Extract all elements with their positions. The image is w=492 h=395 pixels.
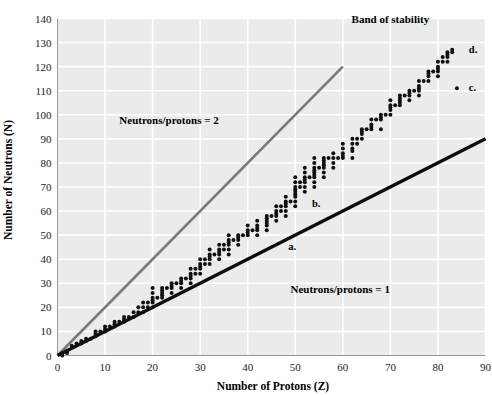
data-point xyxy=(298,180,302,184)
y-tick-label: 40 xyxy=(41,253,53,265)
data-point xyxy=(193,272,197,276)
point-label-a: a. xyxy=(288,241,296,252)
data-point xyxy=(393,103,397,107)
data-point xyxy=(312,156,316,160)
data-point xyxy=(113,320,117,324)
data-point xyxy=(355,137,359,141)
data-point xyxy=(136,305,140,309)
data-point xyxy=(303,171,307,175)
data-point xyxy=(246,224,250,228)
data-point xyxy=(227,252,231,256)
data-point xyxy=(403,94,407,98)
data-point xyxy=(270,214,274,218)
data-point xyxy=(155,296,159,300)
x-tick-label: 30 xyxy=(195,361,207,373)
chart-figure: 0102030405060708090 01020304050607080901… xyxy=(0,0,492,395)
x-tick-label: 60 xyxy=(337,361,349,373)
data-point xyxy=(379,113,383,117)
data-point xyxy=(160,286,164,290)
data-point xyxy=(255,233,259,237)
data-point xyxy=(227,248,231,252)
data-point xyxy=(198,257,202,261)
data-point xyxy=(317,166,321,170)
data-point xyxy=(94,329,98,333)
data-point xyxy=(241,233,245,237)
x-axis-title: Number of Protons (Z) xyxy=(217,380,330,393)
data-point xyxy=(341,151,345,155)
data-point xyxy=(122,315,126,319)
data-point xyxy=(388,103,392,107)
data-point xyxy=(431,69,435,73)
data-point xyxy=(208,248,212,252)
data-point xyxy=(117,320,121,324)
data-point xyxy=(65,349,69,353)
data-point xyxy=(374,118,378,122)
data-point xyxy=(189,272,193,276)
data-point xyxy=(136,310,140,314)
reference-line-label: Neutrons/protons = 2 xyxy=(119,114,219,126)
data-point xyxy=(146,301,150,305)
data-point xyxy=(441,55,445,59)
data-point xyxy=(193,267,197,271)
data-point xyxy=(331,161,335,165)
data-point xyxy=(151,296,155,300)
data-point xyxy=(250,228,254,232)
data-point xyxy=(132,315,136,319)
data-point xyxy=(141,310,145,314)
x-tick-label: 90 xyxy=(480,361,492,373)
data-point xyxy=(146,305,150,309)
x-tick-label: 10 xyxy=(100,361,112,373)
data-point xyxy=(312,180,316,184)
data-point xyxy=(331,151,335,155)
data-point xyxy=(141,305,145,309)
y-tick-label: 50 xyxy=(41,229,53,241)
data-point xyxy=(412,89,416,93)
data-point xyxy=(450,48,454,52)
data-point xyxy=(355,142,359,146)
y-tick-label: 0 xyxy=(46,350,52,362)
data-point xyxy=(284,214,288,218)
data-point xyxy=(222,243,226,247)
data-point xyxy=(265,214,269,218)
y-tick-label: 110 xyxy=(35,85,52,97)
y-tick-label: 30 xyxy=(41,277,53,289)
data-point xyxy=(174,281,178,285)
data-point xyxy=(388,98,392,102)
data-point xyxy=(384,113,388,117)
data-point xyxy=(189,267,193,271)
y-tick-label: 130 xyxy=(35,37,52,49)
data-point xyxy=(436,65,440,69)
data-point xyxy=(308,175,312,179)
y-tick-label: 10 xyxy=(41,325,53,337)
data-point xyxy=(436,74,440,78)
y-tick-label: 100 xyxy=(35,109,52,121)
data-point xyxy=(279,209,283,213)
data-point xyxy=(265,228,269,232)
y-axis-title: Number of Neutrons (N) xyxy=(2,120,15,240)
data-point xyxy=(274,209,278,213)
data-point xyxy=(127,315,131,319)
x-tick-label: 40 xyxy=(242,361,254,373)
data-point xyxy=(369,118,373,122)
data-point xyxy=(208,252,212,256)
data-point xyxy=(303,185,307,189)
y-tick-label: 70 xyxy=(41,181,53,193)
data-point xyxy=(184,276,188,280)
data-point xyxy=(284,195,288,199)
data-point xyxy=(407,89,411,93)
data-point xyxy=(298,185,302,189)
data-point xyxy=(360,127,364,131)
data-point xyxy=(246,228,250,232)
data-point xyxy=(212,252,216,256)
data-point xyxy=(217,248,221,252)
data-point xyxy=(103,325,107,329)
data-point xyxy=(360,137,364,141)
data-point xyxy=(341,146,345,150)
y-tick-label: 60 xyxy=(41,205,53,217)
data-point xyxy=(293,185,297,189)
data-point xyxy=(293,204,297,208)
x-tick-label: 0 xyxy=(55,361,61,373)
data-point xyxy=(312,161,316,165)
data-point xyxy=(436,60,440,64)
band-of-stability-scatter-chart: 0102030405060708090 01020304050607080901… xyxy=(0,0,492,395)
